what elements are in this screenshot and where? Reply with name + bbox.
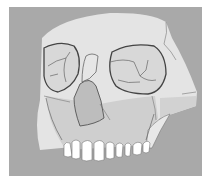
right-orbit — [110, 45, 166, 94]
upper-teeth — [64, 140, 150, 161]
zygomatic-right — [160, 96, 196, 118]
image-frame — [0, 0, 211, 183]
skull-illustration — [0, 0, 211, 183]
